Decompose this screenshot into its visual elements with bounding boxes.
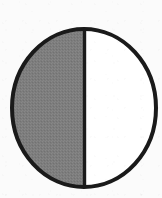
half-shaded-circle-figure: [0, 0, 162, 198]
figure-canvas: [0, 0, 162, 198]
